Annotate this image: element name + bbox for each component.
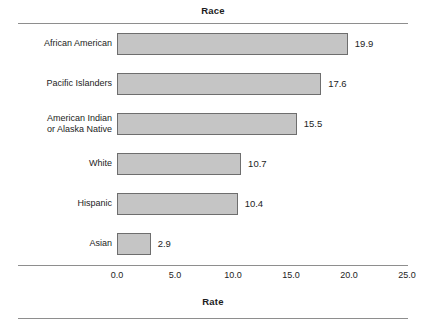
x-tick-label: 5.0: [155, 270, 195, 280]
bar: [117, 233, 151, 255]
bar-value-label: 15.5: [304, 118, 323, 129]
category-label: White: [0, 158, 112, 169]
x-tick-label: 10.0: [213, 270, 253, 280]
bar-value-label: 10.4: [245, 198, 264, 209]
bar-value-label: 2.9: [158, 238, 171, 249]
x-tick-label: 15.0: [271, 270, 311, 280]
category-label: Pacific Islanders: [0, 78, 112, 89]
x-axis-title: Rate: [0, 296, 426, 307]
category-label: Hispanic: [0, 198, 112, 209]
bar: [117, 113, 297, 135]
x-tick-label: 25.0: [387, 270, 426, 280]
race-rate-bar-chart: Race African American19.9Pacific Islande…: [0, 0, 426, 324]
bar-row: White10.7: [0, 153, 426, 175]
bar-value-label: 10.7: [248, 158, 267, 169]
x-axis-rule: [18, 265, 408, 266]
bottom-divider-rule: [18, 318, 408, 319]
bar-value-label: 19.9: [355, 38, 374, 49]
bar-row: African American19.9: [0, 33, 426, 55]
bar: [117, 193, 238, 215]
bar-row: Asian2.9: [0, 233, 426, 255]
bar: [117, 73, 321, 95]
bar-row: Hispanic10.4: [0, 193, 426, 215]
x-tick-label: 20.0: [329, 270, 369, 280]
bar-row: Pacific Islanders17.6: [0, 73, 426, 95]
x-tick-label: 0.0: [97, 270, 137, 280]
category-label: American Indian or Alaska Native: [0, 113, 112, 135]
bar-row: American Indian or Alaska Native15.5: [0, 113, 426, 135]
bar-value-label: 17.6: [328, 78, 347, 89]
bar: [117, 33, 348, 55]
bar: [117, 153, 241, 175]
category-label: Asian: [0, 238, 112, 249]
category-label: African American: [0, 38, 112, 49]
